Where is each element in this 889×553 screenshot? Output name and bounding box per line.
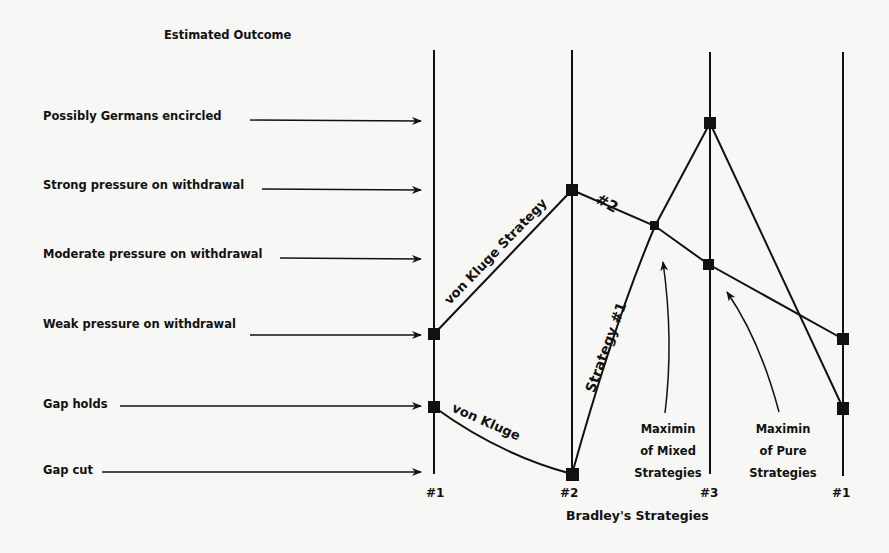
- annotation-pure-line-3: Strategies: [728, 462, 838, 484]
- annotation-maximin-pure: Maximin of Pure Strategies: [728, 418, 838, 484]
- outcome-arrows: [102, 120, 421, 472]
- annotation-pure-line-2: of Pure: [728, 440, 838, 462]
- node-vk2-b1: [428, 328, 440, 340]
- axis-label-1-left: #1: [426, 486, 444, 500]
- arrow-possibly-encircled: [250, 120, 421, 121]
- arrow-strong-pressure: [262, 189, 421, 190]
- x-axis-title: Bradley's Strategies: [566, 508, 709, 523]
- axis-label-3: #3: [700, 486, 718, 500]
- annotation-maximin-mixed: Maximin of Mixed Strategies: [608, 418, 728, 484]
- annotation-mixed-line-2: of Mixed: [608, 440, 728, 462]
- node-vk2-b1-right: [837, 333, 849, 345]
- outcome-label-weak-pressure: Weak pressure on withdrawal: [43, 317, 236, 331]
- node-vk1-b1: [428, 401, 440, 413]
- outcome-label-strong-pressure: Strong pressure on withdrawal: [43, 178, 244, 192]
- axis-label-1-right: #1: [832, 486, 850, 500]
- annotation-mixed-line-1: Maximin: [608, 418, 728, 440]
- node-vk1-b3: [704, 117, 716, 129]
- annotation-mixed-line-3: Strategies: [608, 462, 728, 484]
- outcome-label-moderate-pressure: Moderate pressure on withdrawal: [43, 247, 263, 261]
- strategy-axes: [434, 50, 843, 476]
- arrow-moderate-pressure: [280, 258, 421, 259]
- node-vk2-b3: [703, 259, 714, 270]
- axis-label-2: #2: [560, 486, 578, 500]
- node-vk2-b2: [566, 184, 578, 196]
- outcome-label-possibly-encircled: Possibly Germans encircled: [43, 109, 222, 123]
- node-vk1-b2: [566, 468, 579, 481]
- outcome-label-gap-holds: Gap holds: [43, 397, 108, 411]
- node-mixed-maximin: [650, 221, 659, 230]
- diagram-title: Estimated Outcome: [164, 28, 291, 42]
- maximin-pure-arrow: [727, 292, 779, 412]
- outcome-label-gap-cut: Gap cut: [43, 463, 93, 477]
- maximin-mixed-arrow: [663, 262, 669, 413]
- annotation-pure-line-1: Maximin: [728, 418, 838, 440]
- node-vk1-b1-right: [837, 402, 849, 415]
